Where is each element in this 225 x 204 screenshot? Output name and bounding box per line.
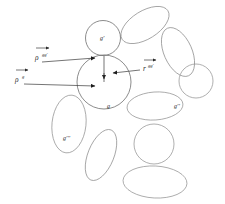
label-r-gg-prime: r gg' — [143, 60, 156, 73]
label-rho-gg-prime-sup: gg' — [42, 52, 49, 57]
grain-top-ellipse — [115, 0, 176, 51]
figure-canvas: ρ gg' ρ g r gg' g' g g'' g''' — [0, 0, 225, 204]
label-rho-gg-prime-base: ρ — [34, 53, 39, 62]
label-grain-center-g: g — [107, 102, 110, 109]
label-r-gg-prime-sup: gg' — [148, 63, 155, 68]
vector-rho-g — [24, 84, 95, 86]
grain-right-circle — [179, 64, 213, 98]
grain-lower-right-circle — [134, 124, 174, 164]
grain-assembly-diagram: ρ gg' ρ g r gg' g' g g'' g''' — [0, 0, 225, 204]
label-grain-upper-g-prime: g' — [100, 34, 105, 41]
label-grain-lower-left-g-triple: g''' — [63, 134, 71, 141]
grain-lower-mid-ellipse — [79, 125, 123, 185]
vectors-group — [24, 56, 140, 86]
label-grain-right-g-double: g'' — [174, 102, 180, 109]
label-r-gg-prime-base: r — [143, 64, 146, 73]
label-rho-g-base: ρ — [14, 75, 19, 84]
grain-bottom-ellipse — [122, 164, 188, 199]
grain-upper-right-ellipse — [155, 23, 202, 82]
vector-r-gg-prime — [113, 70, 140, 73]
grain-left-g-triple — [49, 93, 89, 154]
label-rho-gg-prime: ρ gg' — [34, 48, 49, 62]
label-rho-g-sup: g — [22, 74, 25, 79]
labels-group: ρ gg' ρ g r gg' g' g g'' g''' — [14, 34, 180, 141]
grain-outlines-group — [49, 0, 213, 200]
label-rho-g: ρ g — [14, 70, 28, 84]
